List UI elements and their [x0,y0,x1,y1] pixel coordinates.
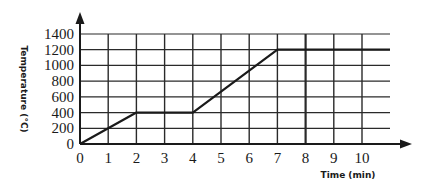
x-tick-0: 0 [76,150,84,166]
x-tick-5: 5 [217,150,225,166]
temperature-time-chart: 0200400600800100012001400 012345678910 T… [0,0,421,190]
y-tick-1400: 1400 [44,26,74,42]
x-tick-4: 4 [189,150,197,166]
x-tick-1: 1 [104,150,112,166]
y-tick-labels: 0200400600800100012001400 [44,26,74,152]
y-tick-200: 200 [52,120,75,136]
x-tick-3: 3 [161,150,169,166]
x-tick-10: 10 [355,150,370,166]
x-tick-8: 8 [302,150,310,166]
y-tick-1200: 1200 [44,42,74,58]
y-tick-800: 800 [52,73,75,89]
x-tick-9: 9 [330,150,338,166]
y-tick-0: 0 [67,136,75,152]
x-tick-2: 2 [133,150,141,166]
y-tick-1000: 1000 [44,57,74,73]
y-axis-arrow-icon [76,12,85,24]
x-tick-7: 7 [274,150,282,166]
x-tick-labels: 012345678910 [76,150,369,166]
y-axis-label: Temperature (°C) [19,45,29,132]
y-tick-400: 400 [52,105,75,121]
x-axis-label: Time (min) [321,170,376,180]
x-axis-arrow-icon [400,140,412,149]
y-tick-600: 600 [52,89,75,105]
x-tick-6: 6 [245,150,253,166]
